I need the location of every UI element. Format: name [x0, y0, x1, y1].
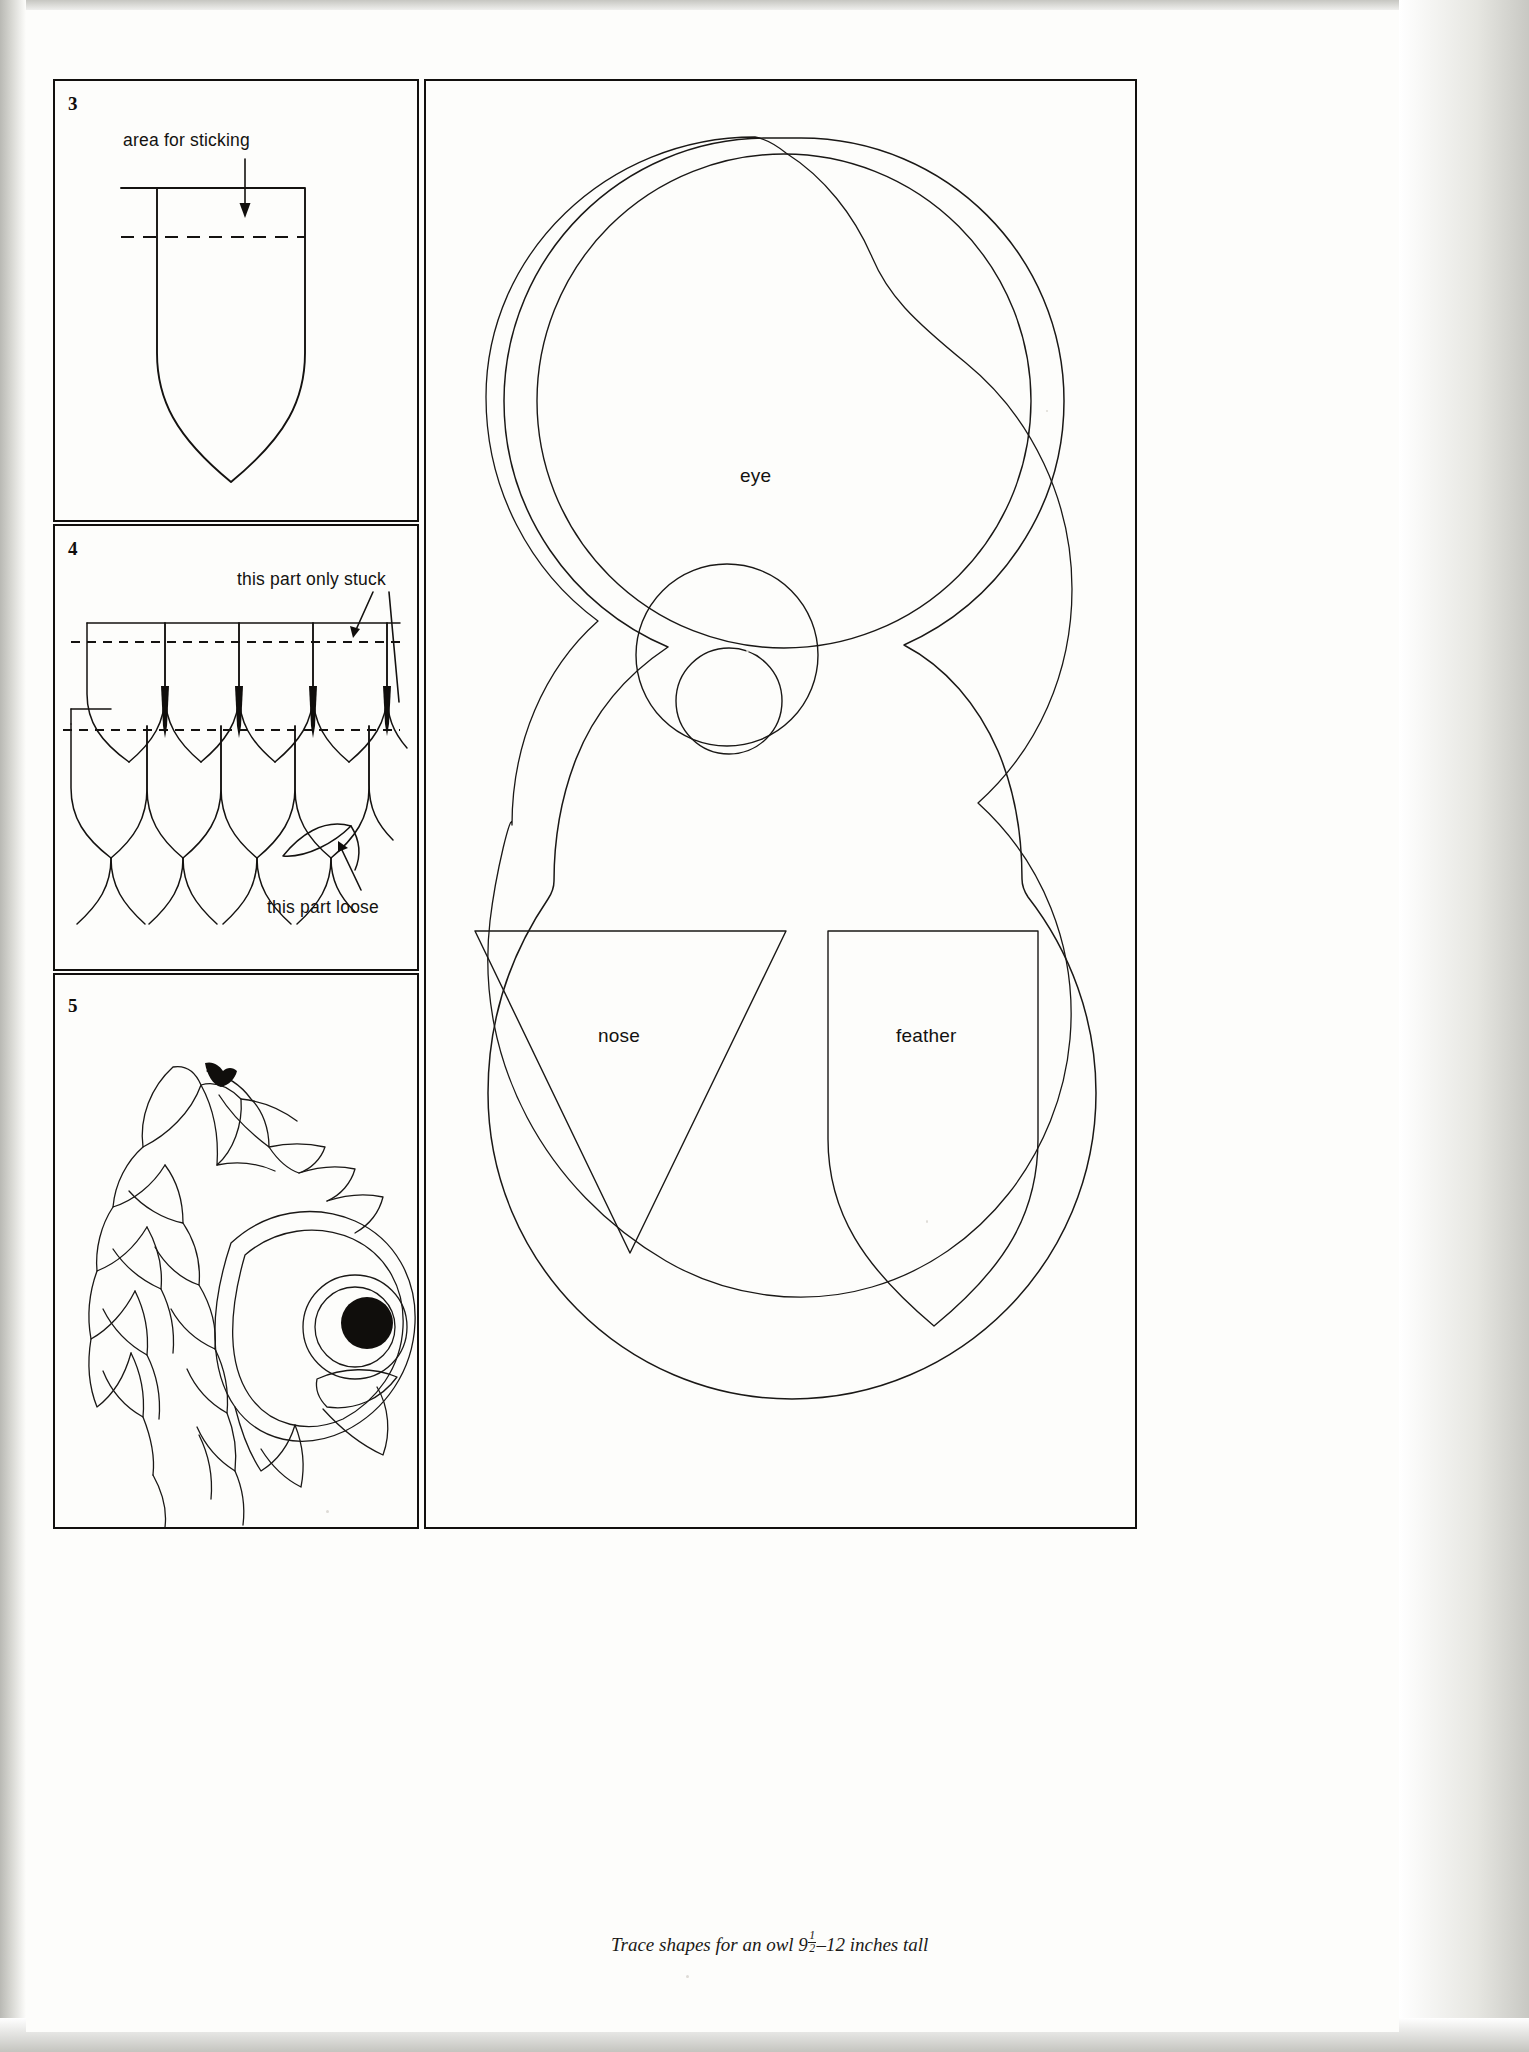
scan-speck: [326, 1510, 329, 1513]
panel-step-4: 4 this part only stuck this part loose: [53, 524, 419, 971]
owl-eye-pupil: [341, 1297, 393, 1349]
owl-pattern-contour: [488, 138, 1096, 1399]
panel-4-artwork: [55, 526, 417, 968]
scan-edge-left: [0, 0, 26, 2052]
caption-suffix: –12 inches tall: [816, 1934, 928, 1955]
stuck-leader-line: [350, 592, 399, 702]
feather-outline: [121, 188, 305, 482]
panel-3-artwork: [55, 81, 417, 519]
feather-template-shape: [828, 931, 1038, 1326]
scan-edge-right: [1399, 0, 1529, 2052]
feather-row-third: [77, 858, 355, 924]
page-sheet: 3 area for sticking 4 this part only stu…: [26, 10, 1399, 2032]
feather-row-top: [71, 623, 407, 762]
scan-speck: [926, 1220, 928, 1223]
trace-shapes-artwork: [426, 81, 1135, 1527]
loose-leader-line: [338, 841, 361, 890]
eye-pupil-circle: [676, 648, 782, 754]
feather-row-second: [63, 709, 400, 858]
eye-iris-circle: [636, 564, 818, 746]
trace-caption: Trace shapes for an owl 912–12 inches ta…: [611, 1930, 928, 1956]
nose-template-shape: [475, 931, 786, 1253]
trace-shapes-panel: eye nose feather: [424, 79, 1137, 1529]
scan-speck: [746, 650, 749, 652]
panel-step-3: 3 area for sticking: [53, 79, 419, 522]
scanned-page: 3 area for sticking 4 this part only stu…: [0, 0, 1529, 2052]
scan-speck: [1046, 410, 1048, 412]
caption-prefix: Trace shapes for an owl 9: [611, 1934, 808, 1955]
eye-template-shapes: [537, 154, 1031, 754]
panel-5-artwork: [55, 975, 417, 1527]
panel-step-5: 5: [53, 973, 419, 1529]
scan-speck: [686, 1975, 689, 1978]
owl-head-illustration: [89, 1062, 415, 1527]
